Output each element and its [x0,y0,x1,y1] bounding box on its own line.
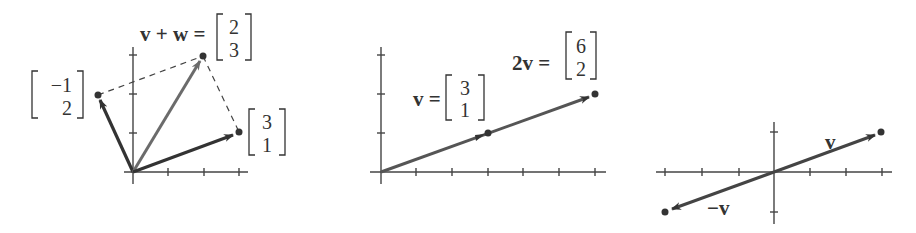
svg-text:2: 2 [576,58,586,80]
label-v: v [825,130,836,154]
label-v-plus-w: v + w = [140,22,205,46]
svg-text:3: 3 [229,39,239,61]
svg-text:3: 3 [460,77,470,99]
svg-text:2: 2 [229,16,239,38]
panel-vector-addition: v + w = 2 3 −1 2 3 1 [32,14,285,184]
panel-negation: v −v [656,122,892,224]
arrow-v [133,135,233,172]
label-v: v = [413,87,441,111]
matrix-sum: 2 3 [217,14,251,61]
matrix-2v: 6 2 [566,32,596,80]
point-w [95,92,102,99]
dashed-parallelogram [98,56,239,132]
vector-diagrams: v + w = 2 3 −1 2 3 1 [0,0,916,233]
arrow-w [100,100,133,172]
axes [124,47,248,184]
point-2v [592,91,599,98]
svg-text:6: 6 [576,35,586,57]
svg-text:1: 1 [262,134,272,156]
point-v [485,130,492,137]
svg-text:1: 1 [460,99,470,121]
svg-text:2: 2 [62,97,72,119]
svg-text:−1: −1 [51,74,72,96]
label-2v: 2v = [512,51,550,75]
label-neg-v: −v [707,196,730,220]
matrix-w: −1 2 [32,71,83,119]
svg-text:3: 3 [262,111,272,133]
point-v [878,129,885,136]
point-v [236,129,243,136]
panel-scalar-multiple: v = 3 1 2v = 6 2 [370,32,606,184]
point-sum [200,53,207,60]
matrix-v: 3 1 [446,75,484,121]
point-neg-v [662,209,669,216]
arrow-v-head [475,134,485,141]
matrix-v: 3 1 [249,109,285,156]
